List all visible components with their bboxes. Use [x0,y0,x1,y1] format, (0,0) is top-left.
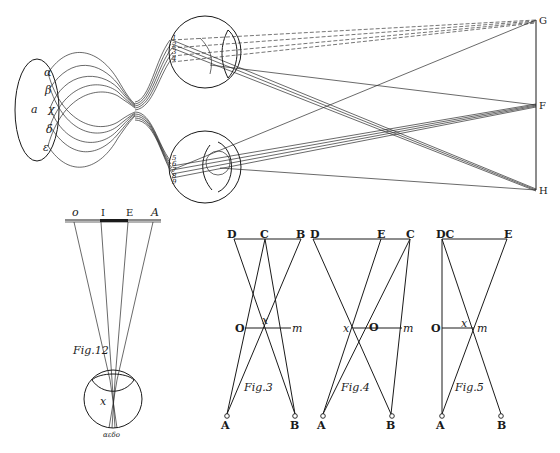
nerve-fibers-left [48,52,135,167]
fig3-label-m: m [292,322,302,335]
fig5-label-x: x [461,317,468,330]
fig12-label-E: E [126,207,133,218]
fig4-label-C: C [406,228,415,241]
fig4-label-m: m [403,322,413,335]
fig5-label-m: m [477,322,487,335]
fig5-label-E: E [504,228,512,241]
fig4-label-E: E [377,228,385,241]
fig4-label-B: B [386,419,395,432]
fig3-label-B-top: B [296,228,305,241]
brain-label-chi: χ [47,103,56,116]
point-label-G: G [539,15,547,26]
fig5-caption: Fig.5 [454,381,484,394]
fig12: o I E A Fig.12 x αεδο [65,206,161,439]
optics-plate: 1 2 3 4 5 6 7 8 9 [0,0,560,453]
optic-nerve-lower [135,112,174,176]
fig12-retina-labels: αεδο [103,431,120,439]
fig3-label-x: x [262,314,269,327]
fig4-caption: Fig.4 [340,381,370,394]
fig12-label-x: x [100,395,107,408]
brain-label-alpha: α [44,66,52,79]
brain-label-delta: δ [46,123,53,136]
rays-lower-eye [172,20,536,190]
fig3-label-C: C [260,228,269,241]
fig5-label-A: A [435,419,445,432]
fig4: D E C x O m A B Fig.4 [310,228,415,432]
fig4-label-D: D [310,228,320,241]
fig3-label-B: B [290,419,299,432]
point-label-H: H [539,185,548,196]
fig5-label-O: O [431,322,441,335]
fig5: DC E O x m A B Fig.5 [431,228,512,432]
fig3: D C B O x m A B Fig.3 [220,228,305,432]
brain-label-beta: β [44,84,51,97]
fig12-label-o: o [72,206,79,219]
fig3-caption: Fig.3 [243,381,273,394]
brain-label-epsilon: ε [43,141,49,154]
upper-eye: 1 2 3 4 [169,16,241,88]
fig5-label-B: B [497,419,506,432]
fig5-label-DC: DC [436,228,455,241]
fig12-label-I: I [101,207,105,218]
fig3-label-D: D [227,228,237,241]
main-binocular-figure: 1 2 3 4 5 6 7 8 9 [15,15,548,203]
brain-label-center: a [31,103,38,116]
point-label-F: F [539,100,546,111]
fig12-label-A: A [150,206,159,219]
fig4-label-A: A [316,419,326,432]
lower-eye-label-9: 9 [172,178,177,186]
optic-nerve-upper [135,40,174,110]
fig3-label-O: O [235,322,245,335]
fig4-label-O: O [369,321,379,334]
fig3-label-A: A [220,419,230,432]
fig4-label-x: x [343,322,350,335]
rays-upper-eye [172,20,536,191]
fig12-caption: Fig.12 [72,344,109,357]
